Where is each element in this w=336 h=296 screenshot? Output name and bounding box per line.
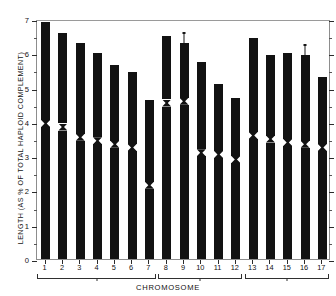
chromosome-length-chart: LENGTH (AS % OF TOTAL HAPLOID COMPLEMENT… <box>0 0 336 296</box>
chromosome-short-arm <box>249 38 258 132</box>
x-axis-title: CHROMOSOME <box>0 283 336 292</box>
chromosome-bar <box>41 19 50 259</box>
chromosome-short-arm <box>162 36 171 99</box>
chromosome-long-arm <box>249 139 258 259</box>
x-axis-tick-label: 17 <box>317 263 325 272</box>
chromosome-long-arm <box>128 151 137 259</box>
centromere <box>249 132 258 139</box>
chromosome-short-arm <box>283 53 292 139</box>
centromere <box>283 139 292 146</box>
centromere <box>110 141 119 148</box>
y-axis-tick <box>32 158 37 159</box>
chromosome-group-bracket <box>37 274 155 279</box>
chromosome-long-arm <box>145 189 154 259</box>
chromosome-bar <box>249 19 258 259</box>
y-axis-tick <box>32 124 37 125</box>
centromere <box>58 124 67 131</box>
chromosome-short-arm <box>266 55 275 136</box>
chromosome-long-arm <box>180 105 189 259</box>
y-axis-minor-tick <box>329 107 332 108</box>
y-axis-minor-tick <box>329 175 332 176</box>
y-axis-tick <box>329 227 334 228</box>
x-axis-tick-label: 9 <box>181 263 185 272</box>
y-axis-minor-tick <box>34 210 37 211</box>
chromosome-bar <box>58 19 67 259</box>
y-axis-tick <box>329 261 334 262</box>
chromosome-bar <box>283 19 292 259</box>
x-axis-tick-label: 5 <box>112 263 116 272</box>
y-axis-minor-tick <box>329 141 332 142</box>
chromosome-long-arm <box>231 163 240 259</box>
chromosome-short-arm <box>41 22 50 120</box>
centromere <box>318 144 327 151</box>
x-axis-tick-label: 12 <box>231 263 239 272</box>
centromere <box>76 134 85 141</box>
bracket-nub <box>286 278 287 281</box>
y-axis-minor-tick <box>329 244 332 245</box>
chromosome-bar <box>214 19 223 259</box>
y-axis-tick <box>32 227 37 228</box>
y-axis-minor-tick <box>34 38 37 39</box>
chromosome-long-arm <box>197 156 206 259</box>
y-axis-tick <box>329 192 334 193</box>
x-axis-tick-label: 16 <box>300 263 308 272</box>
y-axis-tick <box>32 261 37 262</box>
x-axis-tick-label: 1 <box>43 263 47 272</box>
x-axis-tick-label: 13 <box>248 263 256 272</box>
y-axis-tick-label: 6 <box>25 51 29 59</box>
chromosome-bar <box>180 19 189 259</box>
satellite-knob <box>304 44 307 46</box>
y-axis-minor-tick <box>34 107 37 108</box>
chromosome-long-arm <box>76 141 85 259</box>
y-axis-tick-label: 3 <box>25 154 29 162</box>
centromere <box>162 100 171 107</box>
centromere <box>145 182 154 189</box>
y-axis-minor-tick <box>34 175 37 176</box>
y-axis-tick-label: 2 <box>25 189 29 197</box>
chromosome-long-arm <box>93 144 102 259</box>
x-axis-tick-label: 4 <box>94 263 98 272</box>
x-axis-tick-label: 8 <box>164 263 168 272</box>
chromosome-short-arm <box>58 33 67 124</box>
chromosome-short-arm <box>128 72 137 144</box>
x-axis-tick-label: 2 <box>60 263 64 272</box>
y-axis-tick-label: 0 <box>25 257 29 265</box>
y-axis-tick <box>329 90 334 91</box>
y-axis-tick <box>329 21 334 22</box>
y-axis-tick-label: 7 <box>25 17 29 25</box>
chromosome-bar <box>301 19 310 259</box>
centromere <box>128 144 137 151</box>
centromere <box>93 137 102 144</box>
chromosome-long-arm <box>110 148 119 259</box>
centromere <box>41 120 50 127</box>
y-axis-tick <box>32 192 37 193</box>
y-axis-tick-label: 1 <box>25 223 29 231</box>
x-axis-tick-label: 14 <box>265 263 273 272</box>
chromosome-short-arm <box>93 53 102 137</box>
y-axis-tick <box>329 124 334 125</box>
satellite-knob <box>183 32 186 34</box>
chromosome-short-arm <box>301 55 310 141</box>
centromere <box>180 98 189 105</box>
y-axis-minor-tick <box>34 72 37 73</box>
chromosome-short-arm <box>318 77 327 144</box>
chromosome-long-arm <box>283 146 292 259</box>
chromosome-group-bracket <box>245 274 329 279</box>
chromosome-short-arm <box>214 84 223 151</box>
chromosome-bar <box>128 19 137 259</box>
y-axis-minor-tick <box>34 141 37 142</box>
x-axis-tick-label: 15 <box>283 263 291 272</box>
centromere <box>214 151 223 158</box>
chromosome-group-bracket <box>158 274 242 279</box>
chromosome-long-arm <box>214 158 223 259</box>
chromosome-long-arm <box>162 107 171 260</box>
chromosome-short-arm <box>76 43 85 134</box>
x-axis-tick-label: 6 <box>129 263 133 272</box>
y-axis-minor-tick <box>329 38 332 39</box>
chromosome-bar <box>266 19 275 259</box>
chromosome-short-arm <box>110 65 119 140</box>
centromere <box>231 156 240 163</box>
y-axis-minor-tick <box>34 244 37 245</box>
bracket-nub <box>96 278 97 281</box>
centromere <box>197 149 206 156</box>
